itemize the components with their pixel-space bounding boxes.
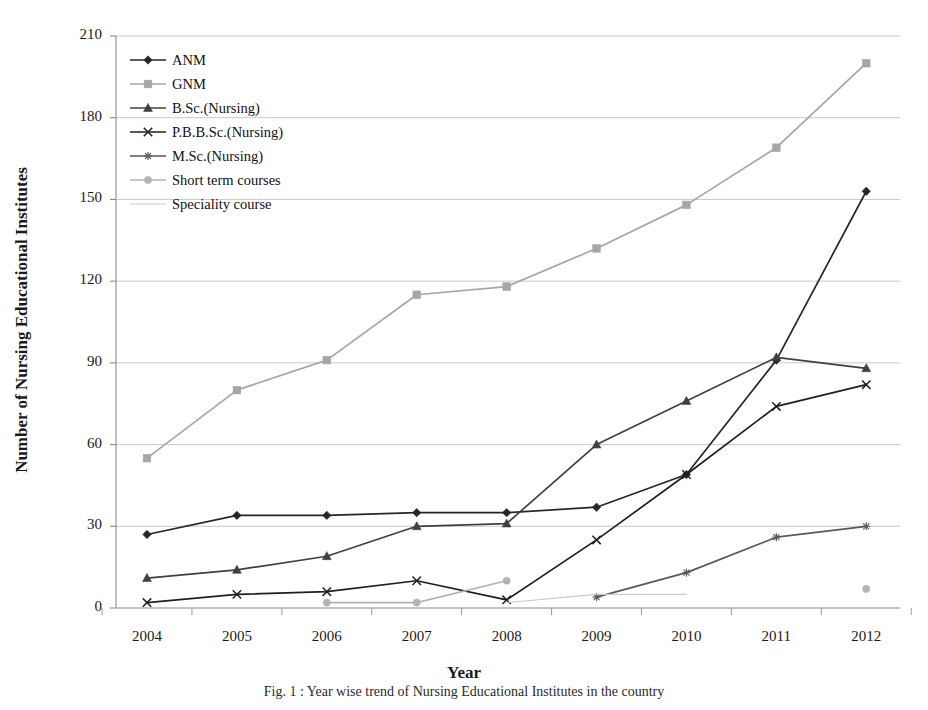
x-tick-label: 2007 — [382, 628, 452, 645]
y-tick-label: 150 — [42, 189, 102, 206]
data-point-marker — [592, 503, 600, 511]
data-point-marker — [772, 533, 780, 541]
data-point-marker — [502, 508, 510, 516]
data-point-marker — [862, 187, 870, 195]
data-point-marker — [323, 599, 330, 606]
legend-swatch-msc — [128, 147, 168, 165]
legend-label-pbbsc: P.B.B.Sc.(Nursing) — [168, 124, 283, 141]
legend-swatch-speciality — [128, 195, 168, 213]
data-point-marker — [593, 245, 601, 253]
y-tick-label: 120 — [42, 271, 102, 288]
legend-label-bsc: B.Sc.(Nursing) — [168, 100, 260, 117]
data-point-marker — [503, 283, 511, 291]
y-tick-label: 180 — [42, 108, 102, 125]
x-tick-label: 2005 — [202, 628, 272, 645]
data-point-marker — [862, 522, 870, 530]
data-point-marker — [233, 386, 241, 394]
legend-swatch-short-term — [128, 171, 168, 189]
x-tick-label: 2006 — [292, 628, 362, 645]
data-point-marker — [413, 508, 421, 516]
data-point-marker — [592, 536, 600, 544]
y-axis-label-text: Number of Nursing Educational Institutes — [12, 167, 32, 473]
data-point-marker — [682, 569, 690, 577]
chart-legend: ANM GNM B.Sc.(Nursing) P.B.B.Sc.(Nursing… — [128, 48, 358, 216]
legend-label-anm: ANM — [168, 52, 206, 69]
legend-item-gnm: GNM — [128, 72, 358, 96]
x-tick-label: 2010 — [651, 628, 721, 645]
legend-marker-icon — [128, 171, 168, 189]
legend-swatch-bsc — [128, 99, 168, 117]
x-tick-label: 2009 — [562, 628, 632, 645]
data-point-marker — [863, 585, 870, 592]
legend-item-msc: M.Sc.(Nursing) — [128, 144, 358, 168]
data-point-marker — [323, 511, 331, 519]
legend-marker-icon — [128, 195, 168, 213]
x-tick-label: 2004 — [112, 628, 182, 645]
legend-marker-icon — [128, 75, 168, 93]
legend-item-short-term: Short term courses — [128, 168, 358, 192]
data-point-marker — [143, 530, 151, 538]
data-point-marker — [413, 599, 420, 606]
legend-swatch-gnm — [128, 75, 168, 93]
y-tick-label: 90 — [42, 353, 102, 370]
legend-label-gnm: GNM — [168, 76, 206, 93]
figure-caption: Fig. 1 : Year wise trend of Nursing Educ… — [0, 684, 928, 708]
legend-swatch-anm — [128, 51, 168, 69]
chart-figure: Number of Nursing Educational Institutes… — [0, 0, 928, 710]
legend-label-msc: M.Sc.(Nursing) — [168, 148, 263, 165]
x-tick-label: 2008 — [472, 628, 542, 645]
data-point-marker — [862, 59, 870, 67]
y-tick-label: 30 — [42, 516, 102, 533]
data-point-marker — [233, 511, 241, 519]
series-line — [597, 526, 867, 597]
series-line — [147, 385, 866, 603]
legend-marker-icon — [128, 147, 168, 165]
x-tick-label: 2011 — [741, 628, 811, 645]
legend-label-speciality: Speciality course — [168, 196, 271, 213]
y-tick-label: 0 — [42, 598, 102, 615]
series-b-sc-nursing — [143, 353, 871, 582]
legend-item-anm: ANM — [128, 48, 358, 72]
legend-item-speciality: Speciality course — [128, 192, 358, 216]
y-tick-label: 60 — [42, 435, 102, 452]
legend-label-short-term: Short term courses — [168, 172, 281, 189]
legend-marker-icon — [128, 123, 168, 141]
series-p-b-b-sc-nursing — [143, 380, 871, 606]
legend-item-bsc: B.Sc.(Nursing) — [128, 96, 358, 120]
legend-item-pbbsc: P.B.B.Sc.(Nursing) — [128, 120, 358, 144]
data-point-marker — [144, 176, 151, 183]
y-tick-label: 210 — [42, 26, 102, 43]
data-point-marker — [144, 152, 152, 160]
data-point-marker — [143, 454, 151, 462]
x-axis-label: Year — [0, 663, 928, 683]
data-point-marker — [413, 291, 421, 299]
data-point-marker — [144, 80, 152, 88]
data-point-marker — [323, 356, 331, 364]
data-point-marker — [144, 56, 152, 64]
legend-swatch-pbbsc — [128, 123, 168, 141]
data-point-marker — [773, 144, 781, 152]
x-tick-label: 2012 — [831, 628, 901, 645]
y-axis-label: Number of Nursing Educational Institutes — [8, 30, 36, 610]
data-point-marker — [503, 577, 510, 584]
legend-marker-icon — [128, 99, 168, 117]
series-m-sc-nursing — [593, 522, 871, 601]
legend-marker-icon — [128, 51, 168, 69]
data-point-marker — [683, 201, 691, 209]
